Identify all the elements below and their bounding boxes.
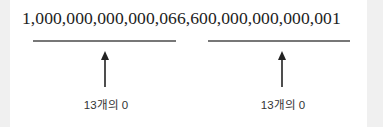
arrow-up-icon	[100, 51, 110, 87]
large-number: 1,000,000,000,000,066,600,000,000,000,00…	[22, 8, 362, 29]
right-margin-band	[367, 0, 383, 127]
underline-left-zeros	[33, 40, 176, 42]
underline-right-zeros	[208, 40, 350, 42]
left-margin-band	[0, 0, 10, 127]
zeros-count-label-right: 13개의 0	[261, 96, 305, 112]
arrow-up-icon	[277, 51, 287, 87]
zeros-count-label-left: 13개의 0	[84, 96, 128, 112]
